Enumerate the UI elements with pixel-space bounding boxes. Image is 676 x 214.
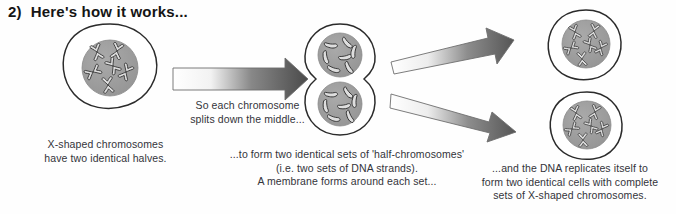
- caption-replication: ...and the DNA replicates itself to form…: [466, 162, 674, 203]
- arrow-branch-up: [391, 28, 514, 74]
- parent-cell: [63, 24, 157, 108]
- caption-half-chromosomes: ...to form two identical sets of 'half-c…: [222, 148, 472, 189]
- daughter-cell-top: [548, 10, 621, 80]
- dividing-cell: [305, 24, 375, 135]
- caption-cell-start: X-shaped chromosomes have two identical …: [18, 138, 193, 165]
- daughter-cell-bottom: [550, 92, 622, 159]
- caption-splitting: So each chromosome splits down the middl…: [180, 99, 315, 126]
- arrow-branch-down: [390, 94, 516, 142]
- arrow-main: [173, 58, 308, 100]
- diagram-page: 2)Here's how it works...: [0, 0, 676, 214]
